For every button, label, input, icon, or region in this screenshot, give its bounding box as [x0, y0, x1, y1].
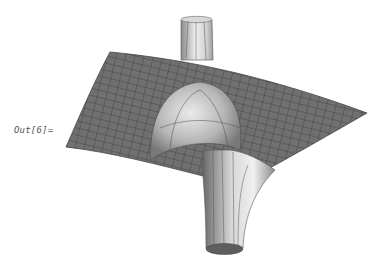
upper-spike [181, 16, 213, 60]
lower-funnel [203, 150, 275, 255]
3d-surface-graphic[interactable] [0, 0, 386, 270]
